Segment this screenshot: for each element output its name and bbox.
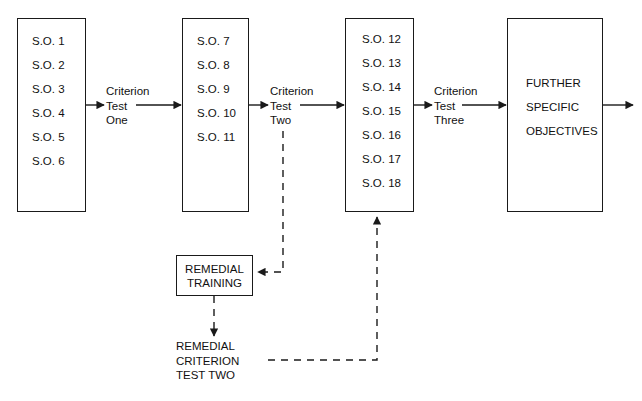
remedial-criterion-test-two-label: REMEDIAL CRITERION TEST TWO xyxy=(176,339,239,383)
further-objectives-list: FURTHER SPECIFIC OBJECTIVES xyxy=(508,71,602,143)
criterion-test-three-line-1: Criterion xyxy=(434,84,477,99)
criterion-test-one-line-3: One xyxy=(106,113,149,128)
further-objectives-line-2: SPECIFIC xyxy=(508,95,602,119)
list-item: S.O. 2 xyxy=(18,53,85,77)
list-item: S.O. 18 xyxy=(346,171,413,195)
further-objectives-line-1: FURTHER xyxy=(508,71,602,95)
objectives-list-stage-1: S.O. 1 S.O. 2 S.O. 3 S.O. 4 S.O. 5 S.O. … xyxy=(18,19,85,173)
objectives-list-stage-3: S.O. 12 S.O. 13 S.O. 14 S.O. 15 S.O. 16 … xyxy=(346,19,413,195)
list-item: S.O. 9 xyxy=(183,77,248,101)
criterion-test-two-line-2: Test xyxy=(270,99,313,114)
list-item: S.O. 8 xyxy=(183,53,248,77)
objectives-box-stage-2: S.O. 7 S.O. 8 S.O. 9 S.O. 10 S.O. 11 xyxy=(182,18,249,212)
objectives-box-stage-3: S.O. 12 S.O. 13 S.O. 14 S.O. 15 S.O. 16 … xyxy=(345,18,414,212)
remedial-criterion-test-line-1: REMEDIAL xyxy=(176,339,239,354)
further-specific-objectives-box: FURTHER SPECIFIC OBJECTIVES xyxy=(507,18,603,212)
list-item: S.O. 15 xyxy=(346,99,413,123)
list-item: S.O. 7 xyxy=(183,29,248,53)
criterion-test-two-line-3: Two xyxy=(270,113,313,128)
objectives-list-stage-2: S.O. 7 S.O. 8 S.O. 9 S.O. 10 S.O. 11 xyxy=(183,19,248,149)
flowchart-canvas: S.O. 1 S.O. 2 S.O. 3 S.O. 4 S.O. 5 S.O. … xyxy=(0,0,642,401)
further-objectives-line-3: OBJECTIVES xyxy=(508,119,602,143)
criterion-test-three-line-2: Test xyxy=(434,99,477,114)
dashed-remedial-test-to-box3 xyxy=(268,217,377,360)
remedial-criterion-test-line-3: TEST TWO xyxy=(176,368,239,383)
list-item: S.O. 17 xyxy=(346,147,413,171)
list-item: S.O. 4 xyxy=(18,101,85,125)
list-item: S.O. 6 xyxy=(18,149,85,173)
remedial-training-box: REMEDIAL TRAINING xyxy=(176,255,253,296)
list-item: S.O. 12 xyxy=(346,27,413,51)
remedial-criterion-test-line-2: CRITERION xyxy=(176,354,239,369)
objectives-box-stage-1: S.O. 1 S.O. 2 S.O. 3 S.O. 4 S.O. 5 S.O. … xyxy=(17,18,86,212)
criterion-test-one-label: Criterion Test One xyxy=(106,84,149,128)
remedial-training-line-2: TRAINING xyxy=(187,276,242,290)
list-item: S.O. 14 xyxy=(346,75,413,99)
list-item: S.O. 10 xyxy=(183,101,248,125)
list-item: S.O. 16 xyxy=(346,123,413,147)
criterion-test-one-line-1: Criterion xyxy=(106,84,149,99)
list-item: S.O. 5 xyxy=(18,125,85,149)
dashed-test2-to-remedial-training xyxy=(258,131,283,272)
criterion-test-three-label: Criterion Test Three xyxy=(434,84,477,128)
list-item: S.O. 3 xyxy=(18,77,85,101)
criterion-test-one-line-2: Test xyxy=(106,99,149,114)
criterion-test-two-line-1: Criterion xyxy=(270,84,313,99)
criterion-test-three-line-3: Three xyxy=(434,113,477,128)
criterion-test-two-label: Criterion Test Two xyxy=(270,84,313,128)
remedial-training-line-1: REMEDIAL xyxy=(185,262,244,276)
list-item: S.O. 1 xyxy=(18,29,85,53)
list-item: S.O. 11 xyxy=(183,125,248,149)
list-item: S.O. 13 xyxy=(346,51,413,75)
